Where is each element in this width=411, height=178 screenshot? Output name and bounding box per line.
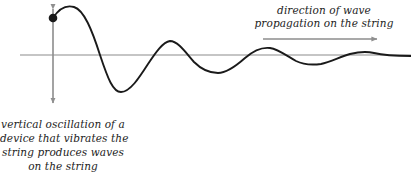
oscillation-label-line-1: vertical oscillation of a bbox=[0, 117, 126, 131]
oscillation-label-line-3: string produces waves bbox=[0, 145, 126, 159]
oscillation-label-line-4: on the string bbox=[0, 159, 126, 173]
oscillation-label-line-2: device that vibrates the bbox=[0, 131, 126, 145]
source-point-dot-icon bbox=[49, 14, 58, 23]
vertical-oscillation-caption: vertical oscillation of a device that vi… bbox=[0, 117, 126, 173]
propagation-label-line-2: propagation on the string bbox=[252, 17, 396, 30]
wave-on-string-figure: direction of wave propagation on the str… bbox=[0, 0, 411, 178]
propagation-label-line-1: direction of wave bbox=[252, 4, 396, 17]
direction-of-wave-propagation-label: direction of wave propagation on the str… bbox=[252, 4, 396, 30]
